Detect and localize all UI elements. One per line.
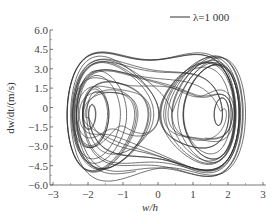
x-tick-label: −1	[117, 188, 129, 200]
legend: λ=1 000	[170, 11, 230, 23]
y-tick-label: −6.0	[28, 179, 48, 191]
y-tick-label: 0	[43, 102, 49, 114]
y-tick-label: −4.5	[28, 160, 48, 172]
x-tick-label: −2	[82, 188, 94, 200]
x-tick-label: 3	[260, 188, 266, 200]
x-tick-label: 2	[225, 188, 231, 200]
trajectory-path	[67, 52, 246, 181]
y-tick-label: 4.5	[34, 43, 48, 55]
y-tick-label: 1.5	[34, 82, 48, 94]
y-tick-label: −1.5	[28, 121, 48, 133]
x-axis-label: w/h	[142, 201, 158, 213]
y-axis-label: dw/dt/(m/s)	[4, 82, 17, 134]
y-tick-label: −3.0	[28, 140, 48, 152]
y-tick-label: 6.0	[34, 24, 48, 36]
trajectory-curves	[67, 52, 246, 181]
x-tick-label: 0	[155, 188, 161, 200]
x-tick-label: 1	[190, 188, 196, 200]
y-ticks: 6.04.53.01.50−1.5−3.0−4.5−6.0	[28, 24, 53, 191]
x-tick-label: −3	[47, 188, 59, 200]
y-tick-label: 3.0	[34, 63, 48, 75]
legend-label: λ=1 000	[193, 11, 230, 23]
phase-portrait-chart: 6.04.53.01.50−1.5−3.0−4.5−6.0 −3−2−10123…	[0, 0, 280, 218]
